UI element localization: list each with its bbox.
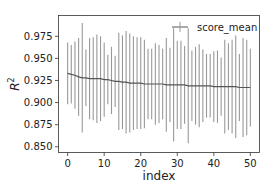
x-tick-label: 30 bbox=[171, 158, 184, 169]
y-tick-label: 0.950 bbox=[24, 53, 53, 64]
y-tick-label: 0.875 bbox=[24, 119, 53, 130]
x-tick-label: 50 bbox=[244, 158, 257, 169]
x-tick-label: 20 bbox=[134, 158, 147, 169]
y-tick-label: 0.975 bbox=[24, 31, 53, 42]
chart: 0.8500.8750.9000.9250.9500.975 010203040… bbox=[0, 0, 273, 189]
y-axis-label: R2 bbox=[7, 77, 22, 90]
x-axis: 01020304050 bbox=[64, 153, 256, 169]
y-tick-label: 0.850 bbox=[24, 141, 53, 152]
legend: score_mean bbox=[172, 22, 257, 34]
svg-text:R2: R2 bbox=[7, 77, 22, 90]
y-tick-label: 0.925 bbox=[24, 75, 53, 86]
plot-area bbox=[68, 23, 251, 143]
y-axis: 0.8500.8750.9000.9250.9500.975 bbox=[24, 31, 59, 152]
x-tick-label: 10 bbox=[98, 158, 111, 169]
y-tick-label: 0.900 bbox=[24, 97, 53, 108]
x-axis-label: index bbox=[143, 169, 176, 183]
x-tick-label: 40 bbox=[207, 158, 220, 169]
legend-label: score_mean bbox=[197, 22, 257, 34]
x-tick-label: 0 bbox=[64, 158, 70, 169]
